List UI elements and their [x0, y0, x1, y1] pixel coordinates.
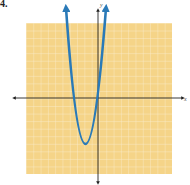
- svg-text:y: y: [99, 2, 103, 8]
- parabola-graph: x y: [0, 0, 190, 185]
- grid: [26, 23, 172, 174]
- svg-text:x: x: [183, 96, 187, 102]
